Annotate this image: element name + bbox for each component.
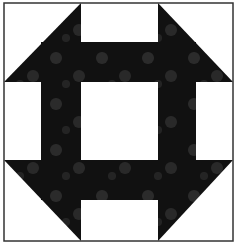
corner-fill-top-left	[41, 42, 81, 82]
churn-dash-block	[0, 0, 238, 246]
corner-fill-top-right	[158, 42, 196, 82]
corner-fill-bottom-right	[158, 160, 196, 200]
strip-top	[81, 42, 158, 82]
center-square	[81, 82, 158, 160]
strip-left	[41, 82, 81, 160]
strip-bottom	[81, 160, 158, 200]
quilt-block-canvas	[0, 0, 238, 246]
corner-fill-bottom-left	[41, 160, 81, 200]
strip-right	[158, 82, 196, 160]
